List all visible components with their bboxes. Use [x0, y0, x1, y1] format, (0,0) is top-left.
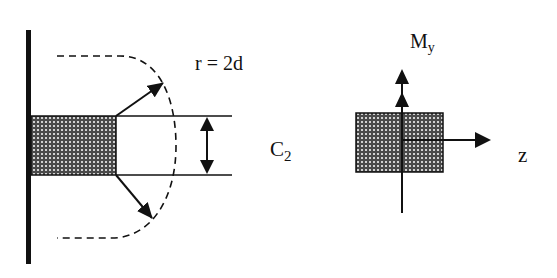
- radius-label: r = 2d: [195, 52, 243, 74]
- column-section-hatched: [31, 116, 116, 175]
- left-figure: r = 2d C2: [26, 30, 292, 264]
- section-hatched: [356, 113, 443, 172]
- moment-label: My: [410, 30, 435, 55]
- dimension-label: C2: [270, 137, 292, 164]
- z-axis-label: z: [518, 143, 527, 167]
- moment-arrowhead-inner-icon: [395, 92, 409, 107]
- right-figure: My z: [356, 30, 527, 213]
- diagram-canvas: r = 2d C2 My z: [0, 0, 557, 278]
- z-axis-arrowhead-icon: [475, 132, 491, 148]
- moment-arrowhead-outer-icon: [395, 69, 409, 84]
- radius-arrow-lower: [116, 175, 152, 218]
- dimension-arrow-c2: [200, 117, 214, 174]
- radius-arrow-upper: [116, 83, 163, 116]
